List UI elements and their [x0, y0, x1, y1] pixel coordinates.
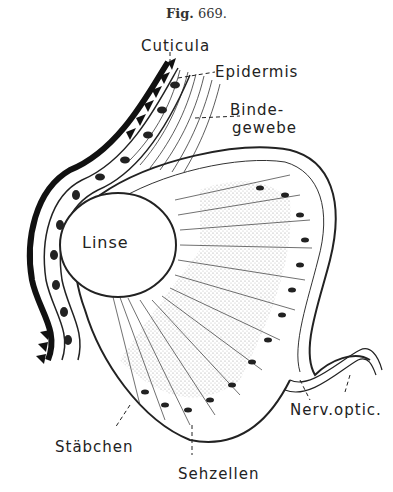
label-bindegewebe-1: Binde- — [230, 103, 284, 118]
label-cuticula: Cuticula — [141, 39, 210, 54]
label-nerv-optic: Nerv.optic. — [290, 403, 382, 418]
label-linse: Linse — [82, 235, 129, 251]
label-sehzellen: Sehzellen — [178, 467, 259, 482]
label-bindegewebe-2: gewebe — [232, 121, 297, 136]
label-staebchen: Stäbchen — [55, 440, 134, 455]
label-epidermis: Epidermis — [215, 65, 298, 80]
